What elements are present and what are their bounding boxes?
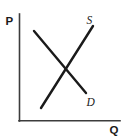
supply-curve-label: S	[87, 14, 93, 26]
y-axis-label: P	[6, 15, 14, 27]
demand-curve-line	[34, 31, 86, 93]
supply-curve-line	[41, 26, 93, 108]
x-axis-label: Q	[110, 124, 119, 136]
demand-curve-label: D	[86, 96, 96, 108]
supply-demand-figure: P Q S D	[0, 0, 124, 139]
chart-canvas: P Q S D	[0, 0, 124, 139]
